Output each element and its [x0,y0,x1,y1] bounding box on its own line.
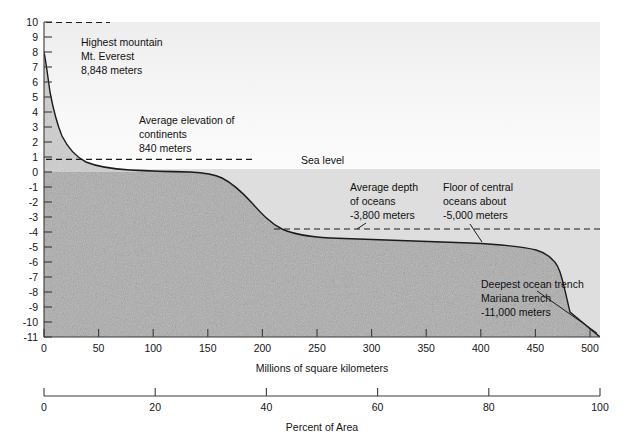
x-tick-label: 100 [144,342,162,354]
annotation-line: -5,000 meters [443,209,508,221]
x-tick-label: 150 [199,342,217,354]
annotation-sea-level: Sea level [301,154,344,166]
y-axis-tick-labels: 10 9 8 7 6 5 4 3 2 1 0 -1 -2 -3 -4 -5 -6… [23,16,38,343]
x-axis-secondary-ticks [44,388,600,396]
y-tick-label: 9 [32,31,38,43]
y-tick-label: -6 [29,256,38,268]
y-tick-label: 2 [32,136,38,148]
y-tick-label: 1 [32,151,38,163]
x-axis-secondary: 0 20 40 60 80 100 Percent of Area [41,388,609,433]
y-tick-label: -2 [29,196,38,208]
hypsometric-curve-figure: 10 9 8 7 6 5 4 3 2 1 0 -1 -2 -3 -4 -5 -6… [0,0,625,444]
y-tick-label: -5 [29,241,38,253]
y-tick-label: -7 [29,271,38,283]
y-tick-label: 8 [32,46,38,58]
x-tick-label: 50 [93,342,105,354]
x-tick-label-secondary: 60 [372,401,384,413]
x-tick-label: 350 [417,342,435,354]
annotation-line: Floor of central [443,181,513,193]
x-tick-label-secondary: 20 [149,401,161,413]
y-tick-label: -3 [29,211,38,223]
x-tick-label: 400 [472,342,490,354]
y-tick-label: -11 [24,331,39,343]
y-tick-label: 7 [32,61,38,73]
x-tick-label: 200 [254,342,272,354]
y-tick-label: 4 [32,106,38,118]
annotation-line: of oceans [350,195,396,207]
annotation-line: oceans about [443,195,506,207]
annotation-line: Mt. Everest [81,50,134,62]
x-tick-label: 0 [41,342,47,354]
x-tick-label-secondary: 40 [261,401,273,413]
x-tick-label-secondary: 100 [591,401,609,413]
annotation-line: 840 meters [139,142,192,154]
annotation-line: -3,800 meters [350,209,415,221]
annotation-line: Highest mountain [81,36,163,48]
annotation-line: continents [139,128,187,140]
y-tick-label: -8 [29,286,38,298]
x-tick-label: 250 [308,342,326,354]
y-tick-label: 3 [32,121,38,133]
x-tick-label: 500 [581,342,599,354]
x-tick-label-secondary: 80 [483,401,495,413]
x-tick-label: 300 [363,342,381,354]
x-axis-title-primary: Millions of square kilometers [256,362,388,374]
annotation-line: Sea level [301,154,344,166]
annotation-line: Average elevation of [139,114,235,126]
y-tick-label: -10 [23,316,38,328]
x-tick-label: 450 [527,342,545,354]
x-axis-title-secondary: Percent of Area [286,421,359,433]
annotation-line: 8,848 meters [81,64,142,76]
y-tick-label: 0 [32,166,38,178]
chart-canvas: 10 9 8 7 6 5 4 3 2 1 0 -1 -2 -3 -4 -5 -6… [0,0,625,444]
annotation-line: Deepest ocean trench [481,278,584,290]
y-tick-label: -1 [29,181,38,193]
x-axis-tick-labels: 0 50 100 150 200 250 300 350 400 450 500 [41,342,599,354]
y-tick-label: 10 [26,16,38,28]
y-tick-label: 6 [32,76,38,88]
y-tick-label: 5 [32,91,38,103]
x-tick-label-secondary: 0 [41,401,47,413]
annotation-line: Average depth [350,181,418,193]
y-tick-label: -4 [29,226,38,238]
x-axis-secondary-tick-labels: 0 20 40 60 80 100 [41,401,609,413]
y-tick-label: -9 [29,301,38,313]
annotation-line: -11,000 meters [481,306,551,318]
